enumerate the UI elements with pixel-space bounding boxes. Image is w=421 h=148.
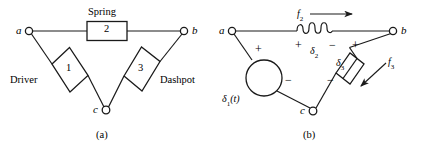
spring-minus-sign: − [329, 39, 336, 51]
node-a-label: a [16, 25, 22, 36]
source-circle [246, 60, 282, 96]
force-f2-subscript: 2 [300, 15, 304, 23]
node-b-a-label: a [219, 25, 225, 36]
source-label: δ1(t) [222, 89, 240, 108]
spring-delta-subscript: 2 [315, 52, 319, 60]
figure-svg [0, 0, 421, 148]
force-f3-arrow [361, 63, 386, 86]
spring-number-label: 2 [104, 24, 109, 35]
wire-dashpot-to-b [160, 34, 182, 62]
node-b-label: b [192, 25, 198, 36]
panel-b-caption: (b) [303, 130, 315, 141]
panel-a-graphics [25, 22, 187, 114]
wire-b-a-to-source [234, 34, 252, 60]
dashpot-number-label: 3 [138, 63, 143, 74]
source-delta-argument: (t) [230, 93, 239, 104]
wire-c-to-dashpot [109, 76, 125, 107]
node-b-c-marker [309, 107, 317, 115]
node-b-marker [180, 27, 187, 34]
node-b-c-label: c [300, 105, 305, 116]
panel-b-graphics [228, 14, 396, 115]
spring-coil-path [297, 23, 332, 34]
driver-title-label: Driver [10, 75, 37, 86]
node-b-a-marker [228, 27, 235, 34]
driver-number-label: 1 [66, 63, 71, 74]
force-f3-subscript: 3 [391, 63, 395, 71]
node-c-marker [102, 106, 110, 114]
dashpot-title-label: Dashpot [160, 75, 195, 86]
spring-delta-label: δ2 [310, 41, 318, 60]
node-c-label: c [93, 104, 98, 115]
node-a-marker [25, 27, 32, 34]
source-minus-sign: − [285, 74, 292, 86]
force-f2-label: f2 [297, 4, 303, 23]
dashpot-delta-subscript: 3 [341, 64, 345, 72]
node-b-b-label: b [401, 25, 407, 36]
dashpot-delta-label: δ3 [336, 53, 344, 72]
spring-title-label: Spring [88, 7, 116, 18]
source-plus-sign: + [255, 43, 262, 55]
spring-plus-sign: + [295, 39, 302, 51]
dashpot-plus-sign: + [352, 39, 359, 51]
force-f3-label: f3 [388, 52, 394, 71]
panel-a-caption: (a) [96, 130, 108, 141]
figure-container: a b c Spring 2 Driver 1 Dashpot 3 (a) a … [0, 0, 421, 148]
wire-source-to-c [277, 91, 310, 108]
wire-a-to-driver [32, 34, 53, 64]
dashpot-minus-sign: − [327, 74, 334, 86]
